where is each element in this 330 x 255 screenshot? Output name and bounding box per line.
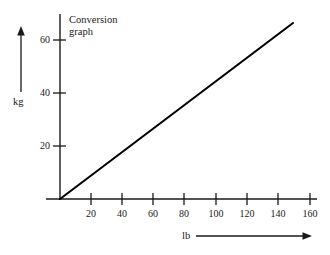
chart-title: Conversion graph	[69, 14, 117, 38]
x-tick-label-20: 20	[86, 209, 96, 219]
y-tick-label-60: 60	[34, 35, 50, 45]
y-axis-label-kg: kg	[13, 96, 24, 107]
lb-axis-arrow	[196, 232, 312, 240]
x-tick-label-60: 60	[148, 209, 158, 219]
y-tick-label-40: 40	[34, 88, 50, 98]
x-tick-label-140: 140	[271, 209, 286, 219]
kg-axis-arrow	[17, 26, 25, 92]
conversion-line	[60, 23, 293, 199]
x-tick-label-120: 120	[240, 209, 255, 219]
conversion-graph-figure: Conversion graph kg lb 60 40 20 20 40 60…	[0, 0, 330, 255]
x-axis-label-lb: lb	[182, 230, 190, 241]
x-tick-label-160: 160	[303, 209, 318, 219]
y-tick-label-20: 20	[34, 141, 50, 151]
x-tick-label-40: 40	[117, 209, 127, 219]
x-tick-label-100: 100	[209, 209, 224, 219]
x-tick-label-80: 80	[179, 209, 189, 219]
